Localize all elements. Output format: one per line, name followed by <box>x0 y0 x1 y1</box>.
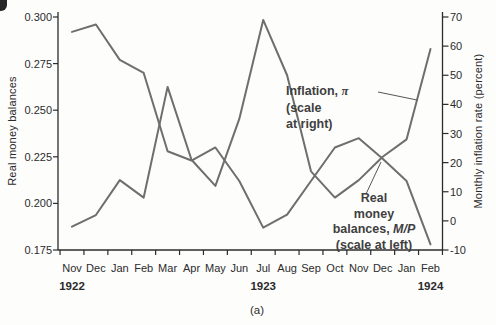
left-tick-label: 0.300 <box>24 11 52 23</box>
month-label: Oct <box>326 262 343 274</box>
right-axis-title: Monthly inflation rate (percent) <box>472 54 484 209</box>
right-tick-label: 10 <box>450 186 462 198</box>
left-tick-label: 0.275 <box>24 58 52 70</box>
month-label: Mar <box>158 262 177 274</box>
year-label: 1923 <box>250 280 276 292</box>
left-tick-label: 0.200 <box>24 197 52 209</box>
month-label: Aug <box>277 262 297 274</box>
month-label: Apr <box>183 262 200 274</box>
right-tick-label: 70 <box>450 11 462 23</box>
plot-canvas <box>0 0 496 325</box>
month-label: Nov <box>62 262 82 274</box>
month-label: Feb <box>421 262 440 274</box>
month-label: Jan <box>398 262 416 274</box>
left-tick-label: 0.250 <box>24 104 52 116</box>
panel-letter-label: (a) <box>250 304 264 316</box>
year-label: 1924 <box>418 280 444 292</box>
left-axis-title: Real money balances <box>6 76 18 186</box>
month-label: Jun <box>230 262 248 274</box>
inflation-label-pointer <box>378 92 417 100</box>
month-label: Feb <box>134 262 153 274</box>
year-label: 1922 <box>59 280 85 292</box>
month-label: Dec <box>86 262 106 274</box>
right-tick-label: -10 <box>450 244 466 256</box>
month-label: Jan <box>111 262 129 274</box>
month-label: May <box>205 262 226 274</box>
right-tick-label: 60 <box>450 40 462 52</box>
right-tick-label: 40 <box>450 98 462 110</box>
hyperinflation-chart-figure: Real money balances Monthly inflation ra… <box>0 0 496 325</box>
right-tick-label: 0 <box>450 215 456 227</box>
right-tick-label: 50 <box>450 69 462 81</box>
real-money-balances-series-label: Realmoneybalances, M/P(scale at left) <box>333 191 416 253</box>
left-tick-label: 0.225 <box>24 151 52 163</box>
month-label: Dec <box>373 262 393 274</box>
inflation-series-label: Inflation, π(scaleat right) <box>286 83 348 133</box>
right-tick-label: 30 <box>450 128 462 140</box>
month-label: Sep <box>301 262 321 274</box>
left-tick-label: 0.175 <box>24 244 52 256</box>
month-label: Jul <box>256 262 270 274</box>
month-label: Nov <box>349 262 369 274</box>
right-tick-label: 20 <box>450 157 462 169</box>
